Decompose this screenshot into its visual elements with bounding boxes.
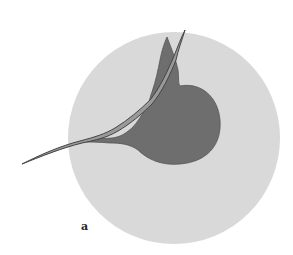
panel-label: a <box>81 220 88 233</box>
neuron-diagram <box>0 0 293 255</box>
